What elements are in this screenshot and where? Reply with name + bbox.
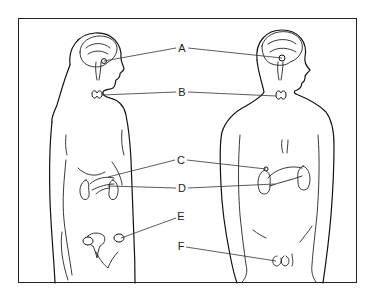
label-f: F: [177, 241, 186, 252]
label-b: B: [177, 87, 186, 98]
label-d: D: [177, 183, 187, 194]
leader-A-left: [104, 48, 176, 61]
leader-C-right: [187, 160, 266, 169]
leader-A-right: [188, 48, 282, 58]
leader-lines: [102, 48, 282, 261]
label-c: C: [176, 155, 186, 166]
female-figure: [50, 33, 135, 283]
leader-E: [121, 218, 176, 238]
leader-D-right: [188, 184, 275, 188]
label-e: E: [176, 211, 185, 222]
label-a: A: [177, 43, 186, 54]
leader-C-left: [108, 160, 175, 177]
male-figure: [220, 30, 334, 283]
leader-B-left: [102, 92, 176, 95]
endocrine-diagram: A B C D E F: [0, 0, 388, 298]
diagram-canvas: [0, 0, 388, 298]
diagram-frame: [19, 19, 357, 283]
